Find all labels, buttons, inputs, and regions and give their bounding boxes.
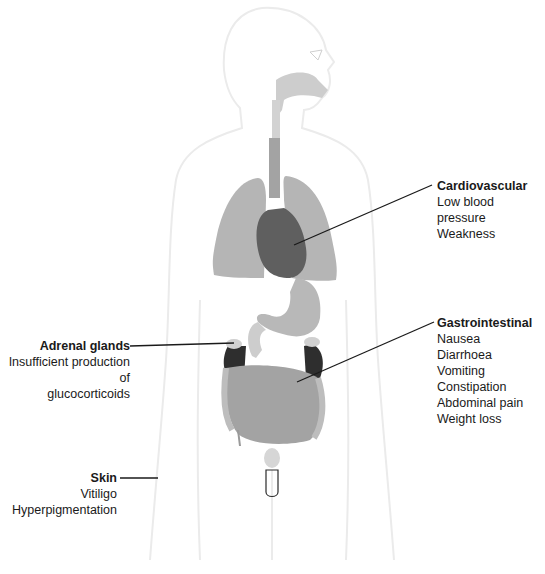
symptom: Vitiligo bbox=[12, 486, 117, 502]
adrenal-leader bbox=[130, 343, 234, 346]
trachea bbox=[269, 138, 280, 198]
cardiovascular-title: Cardiovascular bbox=[437, 178, 545, 194]
symptom: Hyperpigmentation bbox=[12, 502, 117, 518]
symptom: Insufficient production of bbox=[0, 354, 130, 386]
symptom: Low blood pressure bbox=[437, 194, 545, 226]
skin-label: Skin Vitiligo Hyperpigmentation bbox=[12, 470, 117, 518]
symptom: Weight loss bbox=[437, 411, 532, 427]
right-adrenal bbox=[304, 337, 320, 347]
symptom: Weakness bbox=[437, 226, 545, 242]
gastrointestinal-label: Gastrointestinal Nausea Diarrhoea Vomiti… bbox=[437, 315, 532, 427]
body-outline bbox=[150, 8, 394, 560]
symptom: Abdominal pain bbox=[437, 395, 532, 411]
pharynx bbox=[276, 73, 328, 119]
gastrointestinal-title: Gastrointestinal bbox=[437, 315, 532, 331]
symptom: Diarrhoea bbox=[437, 347, 532, 363]
adrenal-title: Adrenal glands bbox=[0, 338, 130, 354]
oesophagus bbox=[272, 100, 280, 140]
skin-title: Skin bbox=[12, 470, 117, 486]
duodenum bbox=[248, 322, 266, 358]
symptom: Vomiting bbox=[437, 363, 532, 379]
symptom: Nausea bbox=[437, 331, 532, 347]
stomach bbox=[257, 278, 321, 336]
cardiovascular-label: Cardiovascular Low blood pressure Weakne… bbox=[437, 178, 545, 242]
eye-icon bbox=[310, 50, 322, 60]
adrenal-label: Adrenal glands Insufficient production o… bbox=[0, 338, 130, 402]
symptom: Constipation bbox=[437, 379, 532, 395]
symptom: glucocorticoids bbox=[0, 386, 130, 402]
left-adrenal bbox=[226, 339, 242, 349]
bladder bbox=[264, 448, 280, 468]
